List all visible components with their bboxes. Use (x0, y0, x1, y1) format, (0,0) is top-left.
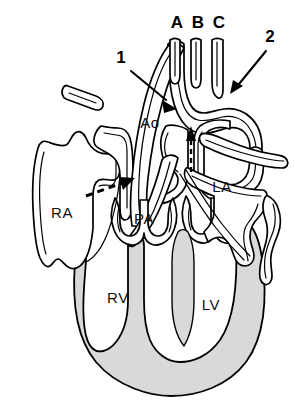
septum-group (172, 230, 194, 346)
chamber-label-ra: RA (51, 204, 73, 221)
heart-anatomy-figure: A B C 1 2 Ao RA PA LA RV LV (0, 0, 295, 401)
branch-label-c: C (213, 13, 225, 32)
chamber-label-rv: RV (107, 289, 129, 306)
chamber-label-lv: LV (202, 296, 220, 313)
callout-label-2: 2 (265, 27, 274, 46)
callout-label-1: 1 (116, 48, 125, 67)
branch-label-group: A B C (171, 13, 225, 32)
chamber-label-pa: PA (134, 210, 154, 227)
branch-label-a: A (171, 13, 183, 32)
chamber-label-la: LA (212, 178, 232, 195)
chamber-label-ao: Ao (140, 114, 160, 131)
branch-label-b: B (192, 13, 204, 32)
interventricular-septum (172, 230, 194, 346)
heart-anatomy-diagram: A B C 1 2 Ao RA PA LA RV LV (0, 0, 295, 401)
